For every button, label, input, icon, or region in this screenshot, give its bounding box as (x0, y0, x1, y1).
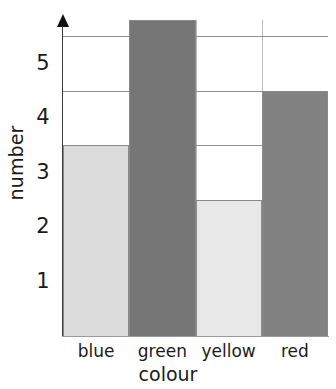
x-tick-label-yellow: yellow (196, 341, 262, 361)
x-tick-label-red: red (262, 341, 328, 361)
bar-blue (63, 145, 129, 336)
bar-yellow (196, 200, 262, 336)
y-tick-label-4: 4 (30, 107, 56, 128)
plot-area (63, 20, 328, 336)
column-separator (262, 20, 263, 336)
bar-chart: number 12345 bluegreenyellowred colour (0, 0, 336, 389)
y-tick-label-3: 3 (30, 162, 56, 183)
y-axis-tick-labels: 12345 (20, 20, 56, 336)
x-tick-label-green: green (129, 341, 195, 361)
column-separator (196, 20, 197, 336)
column-separator (129, 20, 130, 336)
y-tick-label-2: 2 (30, 216, 56, 237)
y-tick-label-5: 5 (30, 53, 56, 74)
x-axis-title: colour (0, 363, 336, 385)
bar-red (262, 91, 328, 336)
x-tick-label-blue: blue (63, 341, 129, 361)
x-axis-line (62, 336, 329, 337)
y-tick-label-1: 1 (30, 271, 56, 292)
x-axis-tick-labels: bluegreenyellowred (63, 341, 328, 365)
bar-green (129, 20, 195, 336)
